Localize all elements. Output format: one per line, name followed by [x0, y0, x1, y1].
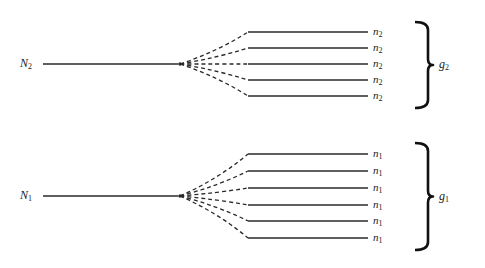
branch-label: n1 — [373, 215, 383, 228]
splitting-diagram — [0, 0, 485, 268]
branch-label: n1 — [373, 232, 383, 245]
curly-brace — [415, 143, 433, 250]
branch-label: n2 — [373, 58, 383, 71]
root-label-N1: N1 — [20, 189, 32, 203]
branch-label: n1 — [373, 165, 383, 178]
brace-label-g2: g2 — [439, 58, 449, 72]
dashed-branch — [180, 196, 248, 205]
curly-brace — [415, 22, 433, 108]
dashed-branch — [180, 196, 248, 238]
root-label-N2: N2 — [20, 57, 32, 71]
branch-label: n1 — [373, 148, 383, 161]
branch-label: n2 — [373, 90, 383, 103]
dashed-branch — [180, 171, 248, 196]
branch-label: n1 — [373, 182, 383, 195]
branch-label: n2 — [373, 42, 383, 55]
brace-label-g1: g1 — [439, 190, 449, 204]
branch-label: n1 — [373, 199, 383, 212]
dashed-branch — [180, 64, 248, 96]
dashed-branch — [180, 196, 248, 221]
dashed-branch — [180, 188, 248, 196]
dashed-branch — [180, 32, 248, 64]
branch-label: n2 — [373, 74, 383, 87]
branch-label: n2 — [373, 26, 383, 39]
